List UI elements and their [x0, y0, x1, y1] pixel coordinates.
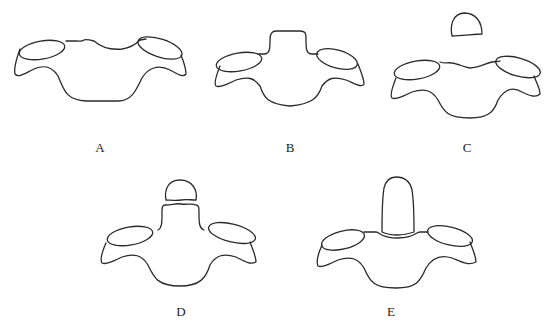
left-facet-c	[393, 57, 441, 83]
right-facet-b	[314, 45, 359, 74]
label-c: C	[463, 140, 472, 155]
label-d: D	[176, 304, 185, 319]
vertebra-body-d	[101, 204, 256, 286]
panel-d: D	[101, 180, 257, 319]
label-b: B	[286, 140, 295, 155]
left-facet-e	[319, 226, 366, 254]
panel-c: C	[391, 13, 542, 155]
label-e: E	[387, 304, 395, 319]
left-facet-d	[106, 223, 154, 249]
vertebra-body-e	[317, 232, 476, 288]
vertebra-body-c	[391, 61, 540, 118]
vertebra-body-a	[15, 40, 186, 101]
panel-a: A	[15, 32, 186, 155]
separated-tip-d	[166, 180, 197, 200]
right-facet-e	[426, 222, 475, 251]
detached-ossicle-c	[451, 13, 482, 36]
right-facet-c	[493, 52, 542, 82]
dens-process-e	[382, 177, 414, 235]
right-facet-a	[135, 32, 184, 63]
label-a: A	[95, 140, 105, 155]
panel-b: B	[215, 31, 364, 155]
figure-canvas: A B C D E	[0, 0, 558, 328]
right-facet-d	[207, 218, 258, 247]
panel-e: E	[317, 177, 476, 319]
left-facet-a	[18, 37, 66, 63]
left-facet-b	[215, 49, 263, 75]
